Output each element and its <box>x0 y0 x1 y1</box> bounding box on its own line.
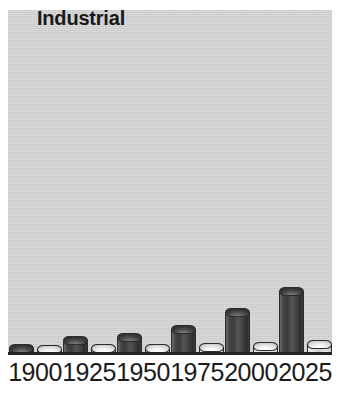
tick-label-1975: 1975 <box>170 358 224 387</box>
bar-cap-ellipse <box>117 333 142 342</box>
bar-group-1900 <box>9 10 62 353</box>
tick-label-2025: 2025 <box>278 358 332 387</box>
bar-group-2025 <box>279 10 332 353</box>
bar-cap-ellipse <box>225 308 250 317</box>
bar-cap-ellipse <box>63 336 88 345</box>
bar-group-1975 <box>171 10 224 353</box>
tick-label-2000: 2000 <box>224 358 278 387</box>
bar-body <box>279 291 304 353</box>
bar-group-1925 <box>63 10 116 353</box>
bar-series-1-2000 <box>225 312 250 353</box>
chart-root: Industrial 1900 1925 1950 1975 2000 2025 <box>0 0 361 418</box>
bar-group-1950 <box>117 10 170 353</box>
bar-cap-ellipse <box>253 342 278 351</box>
bar-body <box>225 312 250 353</box>
bar-cap-ellipse <box>307 340 332 349</box>
bar-cap-ellipse <box>199 343 224 352</box>
x-axis-line <box>8 352 332 355</box>
bar-series-1-1975 <box>171 329 196 353</box>
bar-cap-ellipse <box>171 325 196 334</box>
x-axis-tick-labels: 1900 1925 1950 1975 2000 2025 <box>0 358 361 398</box>
tick-label-1950: 1950 <box>116 358 170 387</box>
bar-group-2000 <box>225 10 278 353</box>
bar-series-1-2025 <box>279 291 304 353</box>
bar-series-1-1950 <box>117 337 142 353</box>
bar-cap-ellipse <box>279 287 304 296</box>
tick-label-1900: 1900 <box>8 358 62 387</box>
bars-layer <box>8 10 332 353</box>
tick-label-1925: 1925 <box>62 358 116 387</box>
